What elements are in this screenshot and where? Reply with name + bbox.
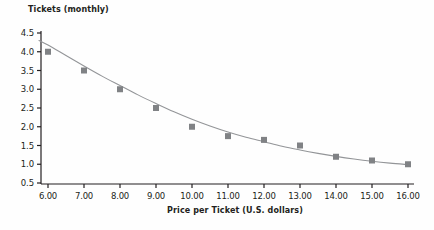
data-point-marker xyxy=(333,154,339,160)
axes xyxy=(41,31,414,184)
plot-area xyxy=(0,0,434,230)
data-point-marker xyxy=(369,158,375,164)
data-point-marker xyxy=(405,161,411,167)
data-point-marker xyxy=(153,105,159,111)
data-point-markers xyxy=(45,49,411,168)
data-point-marker xyxy=(81,68,87,74)
trend-line xyxy=(39,41,408,165)
data-point-marker xyxy=(261,137,267,143)
data-point-marker xyxy=(117,86,123,92)
data-point-marker xyxy=(297,143,303,149)
data-point-marker xyxy=(45,49,51,55)
data-point-marker xyxy=(189,124,195,130)
x-axis-tick-marks xyxy=(48,184,408,188)
data-point-marker xyxy=(225,133,231,139)
chart-container: Tickets (monthly) Price per Ticket (U.S.… xyxy=(0,0,434,230)
